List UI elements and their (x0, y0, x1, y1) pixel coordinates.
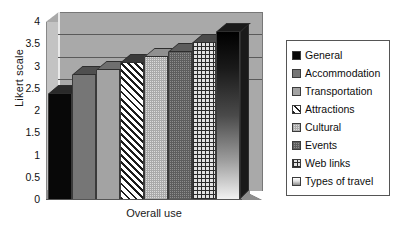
bar-front-face (144, 57, 168, 199)
legend-label: Types of travel (305, 176, 373, 187)
chart-legend: GeneralAccommodationTransportationAttrac… (286, 40, 390, 196)
bar-series (46, 12, 262, 202)
y-tick-label: 2 (14, 104, 40, 116)
bar-front-face (216, 32, 240, 199)
legend-swatch-icon (292, 69, 301, 78)
bar-front-face (168, 52, 192, 199)
legend-swatch-icon (292, 141, 301, 150)
legend-swatch-icon (292, 159, 301, 168)
bar-front-face (96, 70, 120, 199)
bar (168, 43, 192, 199)
legend-item: General (292, 46, 385, 64)
legend-label: General (305, 50, 342, 61)
bar-front-face (48, 94, 72, 199)
bar (144, 48, 168, 199)
bar-front-face (192, 43, 216, 199)
legend-label: Accommodation (305, 68, 380, 79)
bar-front-face (72, 75, 96, 199)
legend-swatch-icon (292, 123, 301, 132)
legend-label: Events (305, 140, 337, 151)
x-axis-label: Overall use (46, 207, 262, 219)
y-tick-label: 1 (14, 149, 40, 161)
bar (96, 61, 120, 199)
legend-label: Cultural (305, 122, 341, 133)
legend-label: Attractions (305, 104, 355, 115)
legend-label: Web links (305, 158, 350, 169)
y-tick-label: 2.5 (14, 82, 40, 94)
legend-item: Accommodation (292, 64, 385, 82)
bar (72, 66, 96, 199)
legend-swatch-icon (292, 87, 301, 96)
bar-side-face (240, 23, 249, 199)
legend-item: Types of travel (292, 172, 385, 190)
bar-chart-figure: Likert scale 00.511.522.533.54 Overall u… (0, 0, 397, 232)
y-tick-label: 1.5 (14, 126, 40, 138)
y-tick-label: 4 (14, 15, 40, 27)
y-tick-label: 0.5 (14, 171, 40, 183)
legend-swatch-icon (292, 177, 301, 186)
legend-item: Events (292, 136, 385, 154)
plot-area (46, 12, 262, 202)
bar (48, 85, 72, 199)
y-tick-label: 3.5 (14, 37, 40, 49)
legend-swatch-icon (292, 105, 301, 114)
bar-front-face (120, 63, 144, 199)
y-axis-tick-labels: 00.511.522.533.54 (14, 12, 40, 198)
legend-item: Web links (292, 154, 385, 172)
bar (120, 54, 144, 199)
legend-label: Transportation (305, 86, 372, 97)
legend-item: Attractions (292, 100, 385, 118)
y-tick-label: 0 (14, 193, 40, 205)
legend-item: Transportation (292, 82, 385, 100)
legend-swatch-icon (292, 51, 301, 60)
bar (216, 23, 240, 199)
y-tick-label: 3 (14, 60, 40, 72)
bar (192, 34, 216, 199)
legend-item: Cultural (292, 118, 385, 136)
